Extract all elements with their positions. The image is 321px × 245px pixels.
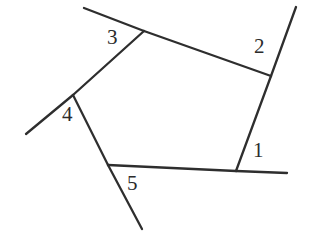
angle-label-5: 5 <box>127 173 138 194</box>
angle-label-2: 2 <box>254 36 265 57</box>
extension-at-1 <box>236 171 287 173</box>
angle-label-1: 1 <box>253 140 264 161</box>
extension-at-2 <box>271 7 296 76</box>
angle-label-4: 4 <box>62 104 73 125</box>
angle-label-3: 3 <box>107 27 118 48</box>
side-2-3 <box>144 31 271 76</box>
pentagon-diagram-canvas <box>0 0 321 245</box>
polygon-sides-group <box>73 31 271 171</box>
side-4-5 <box>73 95 108 165</box>
geometry-figure: 12345 <box>0 0 321 245</box>
